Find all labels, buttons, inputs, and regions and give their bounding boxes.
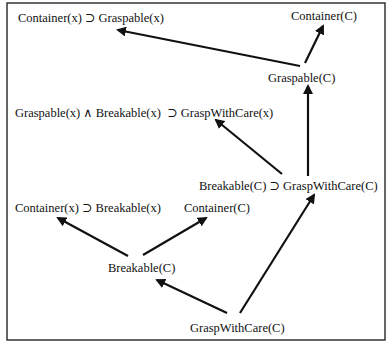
node-graspwithcare-c: GraspWithCare(C) [190,321,285,335]
node-breakable-c-implies-graspwithcare-c: Breakable(C) ⊃ GraspWithCare(C) [199,179,378,193]
node-breakable-c: Breakable(C) [108,261,175,275]
node-graspable-and-breakable-implies-graspwithcare-x: Graspable(x) ∧ Breakable(x) ⊃ GraspWithC… [15,106,273,120]
node-container-c-top: Container(C) [291,9,357,23]
node-graspable-c: Graspable(C) [268,71,335,85]
inference-graph: Container(x) ⊃ Graspable(x) Container(C)… [0,0,392,347]
node-container-c-bottom: Container(C) [184,201,250,215]
node-container-x-implies-breakable-x: Container(x) ⊃ Breakable(x) [15,201,161,215]
diagram-frame [7,3,385,340]
node-container-x-implies-graspable-x: Container(x) ⊃ Graspable(x) [18,11,164,25]
